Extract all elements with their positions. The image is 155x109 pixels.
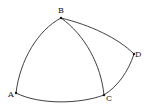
arc-b-c: [61, 18, 104, 95]
arc-b-d: [61, 18, 134, 54]
point-b: [60, 17, 62, 19]
point-a: [15, 92, 17, 94]
arc-d-c: [104, 54, 134, 95]
label-c: C: [106, 94, 112, 103]
label-d: D: [135, 50, 141, 59]
arc-a-b: [16, 18, 61, 93]
label-a: A: [7, 90, 14, 99]
label-b: B: [58, 6, 64, 15]
arc-a-c: [16, 93, 104, 102]
point-c: [103, 94, 105, 96]
spherical-diagram: A B C D: [0, 0, 155, 109]
